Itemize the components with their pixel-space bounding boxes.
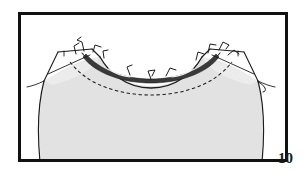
figure-illustration (0, 0, 303, 174)
figure-number: 10 (278, 151, 293, 166)
figure-container: 10 (0, 0, 303, 174)
